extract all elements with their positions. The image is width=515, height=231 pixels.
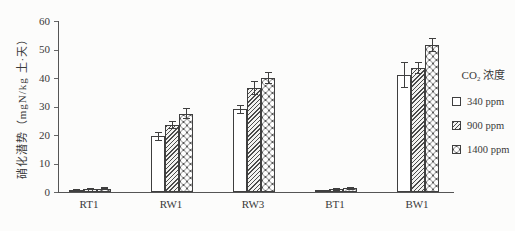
error-bar (415, 62, 422, 73)
y-tick-label: 30 (26, 101, 50, 112)
y-tick-mark (54, 135, 58, 136)
legend-item-340ppm: 340 ppm (452, 96, 515, 107)
bar-RW3-900ppm (247, 88, 261, 192)
legend-title: CO₂ 浓度 (452, 66, 515, 82)
error-bar (73, 189, 80, 191)
error-bar (333, 188, 340, 190)
legend-label: 340 ppm (467, 96, 504, 107)
error-bar (319, 190, 326, 192)
y-tick-mark (54, 192, 58, 193)
error-bar (169, 121, 176, 130)
legend-items: 340 ppm900 ppm1400 ppm (452, 96, 515, 155)
legend: CO₂ 浓度 340 ppm900 ppm1400 ppm (452, 66, 515, 168)
bar-RW1-340ppm (151, 136, 165, 192)
bar-BW1-340ppm (397, 75, 411, 192)
error-bar (251, 81, 258, 95)
x-category-label: RW1 (160, 198, 183, 210)
x-category-label: RT1 (80, 198, 99, 210)
error-bar (237, 105, 244, 114)
bar-RW3-340ppm (233, 109, 247, 192)
error-bar (265, 72, 272, 83)
error-bar (429, 38, 436, 52)
y-tick-mark (54, 164, 58, 165)
bar-BW1-900ppm (411, 68, 425, 192)
y-tick-label: 20 (26, 130, 50, 141)
x-category-label: BW1 (405, 198, 428, 210)
y-tick-label: 60 (26, 16, 50, 27)
bar-BW1-1400ppm (425, 45, 439, 192)
legend-swatch-plain-icon (452, 97, 461, 106)
y-tick-mark (54, 21, 58, 22)
legend-label: 1400 ppm (467, 144, 509, 155)
error-bar (401, 62, 408, 88)
bar-RW3-1400ppm (261, 78, 275, 192)
error-bar (155, 132, 162, 141)
y-tick-label: 10 (26, 158, 50, 169)
error-bar (347, 187, 354, 190)
legend-item-1400ppm: 1400 ppm (452, 144, 515, 155)
error-bar (101, 187, 108, 189)
y-tick-label: 40 (26, 73, 50, 84)
plot-area (58, 21, 454, 193)
y-tick-label: 50 (26, 44, 50, 55)
y-tick-mark (54, 107, 58, 108)
error-bar (183, 108, 190, 119)
legend-swatch-hatch-icon (452, 121, 461, 130)
y-tick-mark (54, 50, 58, 51)
legend-item-900ppm: 900 ppm (452, 120, 515, 131)
bar-chart-figure: 硝化潜势（mgN/kg 土·天） CO₂ 浓度 340 ppm900 ppm14… (0, 0, 515, 231)
x-category-label: RW3 (242, 198, 265, 210)
y-tick-label: 0 (26, 187, 50, 198)
bar-RW1-900ppm (165, 125, 179, 192)
y-tick-mark (54, 78, 58, 79)
legend-label: 900 ppm (467, 120, 504, 131)
x-category-label: BT1 (325, 198, 345, 210)
error-bar (87, 188, 94, 190)
bar-RW1-1400ppm (179, 114, 193, 192)
legend-swatch-balls-icon (452, 145, 461, 154)
